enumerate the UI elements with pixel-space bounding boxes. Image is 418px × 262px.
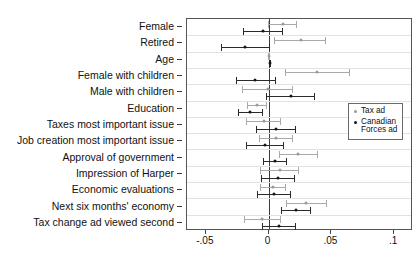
y-axis-label: Next six months' economy bbox=[0, 201, 174, 211]
ci-cap-right bbox=[298, 167, 299, 174]
ci-cap-right bbox=[310, 207, 311, 214]
ci-cap-right bbox=[275, 77, 276, 84]
point-estimate bbox=[273, 160, 276, 163]
gridline bbox=[187, 84, 411, 85]
legend-label: Canadian Forces ad bbox=[361, 118, 397, 135]
ci-cap-right bbox=[280, 216, 281, 223]
y-axis-label: Female bbox=[0, 21, 174, 31]
gridline bbox=[187, 215, 411, 216]
y-axis-label: Age bbox=[0, 54, 174, 64]
legend-marker-icon bbox=[354, 121, 357, 124]
point-estimate bbox=[297, 153, 300, 156]
ci-cap-left bbox=[274, 37, 275, 44]
point-estimate bbox=[294, 209, 297, 212]
coefficient-plot-figure: FemaleRetiredAgeFemale with childrenMale… bbox=[0, 0, 418, 262]
ci-cap-right bbox=[262, 109, 263, 116]
x-axis-tick bbox=[268, 230, 269, 234]
y-axis-category-labels: FemaleRetiredAgeFemale with childrenMale… bbox=[0, 18, 182, 230]
ci-cap-left bbox=[261, 175, 262, 182]
ci-cap-right bbox=[283, 142, 284, 149]
point-estimate bbox=[275, 127, 278, 130]
ci-cap-right bbox=[280, 118, 281, 125]
ci-cap-left bbox=[260, 167, 261, 174]
ci-cap-left bbox=[285, 69, 286, 76]
y-axis-tick bbox=[177, 189, 182, 190]
point-estimate bbox=[262, 120, 265, 123]
point-estimate bbox=[277, 176, 280, 179]
y-axis-label: Job creation most important issue bbox=[0, 135, 174, 145]
y-axis-tick bbox=[177, 59, 182, 60]
gridline bbox=[187, 198, 411, 199]
x-axis-tick bbox=[205, 230, 206, 234]
y-axis-tick bbox=[177, 157, 182, 158]
gridline bbox=[187, 101, 411, 102]
ci-cap-right bbox=[349, 69, 350, 76]
ci-cap-right bbox=[292, 135, 293, 142]
ci-cap-left bbox=[259, 135, 260, 142]
ci-cap-left bbox=[260, 184, 261, 191]
ci-cap-right bbox=[286, 158, 287, 165]
ci-cap-left bbox=[238, 109, 239, 116]
y-axis-label: Male with children bbox=[0, 86, 174, 96]
y-axis-tick bbox=[177, 108, 182, 109]
gridline bbox=[187, 182, 411, 183]
point-estimate bbox=[255, 104, 258, 107]
ci-cap-left bbox=[236, 77, 237, 84]
legend-marker-icon bbox=[354, 110, 357, 113]
ci-cap-right bbox=[325, 37, 326, 44]
point-estimate bbox=[272, 192, 275, 195]
point-estimate bbox=[263, 143, 266, 146]
ci-cap-right bbox=[294, 175, 295, 182]
legend-item: Tax ad bbox=[353, 107, 397, 116]
ci-cap-left bbox=[242, 86, 243, 93]
gridline bbox=[187, 52, 411, 53]
y-axis-label: Impression of Harper bbox=[0, 168, 174, 178]
y-axis-label: Female with children bbox=[0, 70, 174, 80]
ci-cap-left bbox=[266, 93, 267, 100]
y-axis-tick bbox=[177, 124, 182, 125]
clipped-title-descenders bbox=[0, 0, 418, 9]
x-axis-tick-label: .1 bbox=[389, 235, 397, 246]
ci-cap-left bbox=[263, 158, 264, 165]
ci-cap-right bbox=[290, 191, 291, 198]
ci-cap-left bbox=[257, 191, 258, 198]
ci-cap-left bbox=[256, 126, 257, 133]
x-axis: -.050.05.1 bbox=[186, 230, 412, 256]
ci-cap-right bbox=[266, 102, 267, 109]
point-estimate bbox=[282, 22, 285, 25]
point-estimate bbox=[278, 225, 281, 228]
ci-cap-left bbox=[243, 28, 244, 35]
ci-cap-left bbox=[221, 44, 222, 51]
ci-cap-right bbox=[285, 184, 286, 191]
ci-cap-right bbox=[295, 126, 296, 133]
ci-cap-right bbox=[326, 200, 327, 207]
ci-cap-left bbox=[279, 151, 280, 158]
ci-cap-left bbox=[244, 216, 245, 223]
x-axis-tick-label: 0 bbox=[265, 235, 271, 246]
gridline bbox=[187, 35, 411, 36]
ci-cap-left bbox=[268, 21, 269, 28]
y-axis-tick bbox=[177, 75, 182, 76]
legend: Tax adCanadian Forces ad bbox=[348, 103, 403, 140]
point-estimate bbox=[289, 94, 292, 97]
y-axis-tick bbox=[177, 42, 182, 43]
point-estimate bbox=[315, 71, 318, 74]
y-axis-tick bbox=[177, 140, 182, 141]
point-estimate bbox=[268, 55, 271, 58]
ci-cap-right bbox=[296, 21, 297, 28]
point-estimate bbox=[266, 87, 269, 90]
ci-cap-right bbox=[314, 93, 315, 100]
y-axis-label: Taxes most important issue bbox=[0, 119, 174, 129]
y-axis-tick bbox=[177, 26, 182, 27]
point-estimate bbox=[249, 111, 252, 114]
gridline bbox=[187, 68, 411, 69]
y-axis-tick bbox=[177, 222, 182, 223]
ci-cap-left bbox=[246, 118, 247, 125]
ci-cap-right bbox=[282, 28, 283, 35]
y-axis-label: Economic evaluations bbox=[0, 184, 174, 194]
gridline bbox=[187, 149, 411, 150]
ci-cap-right bbox=[317, 151, 318, 158]
point-estimate bbox=[272, 185, 275, 188]
ci-cap-right bbox=[292, 86, 293, 93]
point-estimate bbox=[305, 201, 308, 204]
